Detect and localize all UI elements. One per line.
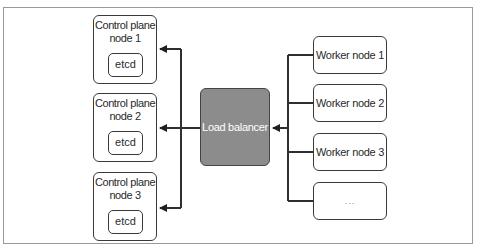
control-plane-node-2-label: Control plane node 2: [94, 97, 156, 123]
control-plane-node-2: Control plane node 2 etcd: [93, 93, 157, 162]
label-line-1: Control plane: [94, 19, 156, 32]
etcd-box: etcd: [108, 131, 143, 155]
etcd-box: etcd: [108, 210, 143, 234]
worker-node-3: Worker node 3: [313, 133, 387, 171]
load-balancer: Load balancer: [200, 88, 270, 166]
label-line-1: Control plane: [94, 176, 156, 189]
label-line-2: node 2: [94, 110, 156, 123]
worker-node-1-label: Worker node 1: [316, 49, 384, 61]
worker-node-2-label: Worker node 2: [316, 97, 384, 109]
load-balancer-label: Load balancer: [202, 121, 268, 133]
worker-node-3-label: Worker node 3: [316, 146, 384, 158]
control-plane-node-3: Control plane node 3 etcd: [93, 172, 157, 241]
control-plane-node-1-label: Control plane node 1: [94, 19, 156, 45]
label-line-1: Control plane: [94, 97, 156, 110]
control-plane-node-1: Control plane node 1 etcd: [93, 15, 157, 84]
worker-node-more: ...: [313, 182, 387, 220]
worker-node-2: Worker node 2: [313, 84, 387, 122]
label-line-2: node 1: [94, 32, 156, 45]
ellipsis-label: ...: [345, 196, 356, 206]
worker-node-1: Worker node 1: [313, 36, 387, 74]
etcd-box: etcd: [108, 53, 143, 77]
label-line-2: node 3: [94, 189, 156, 202]
control-plane-node-3-label: Control plane node 3: [94, 176, 156, 202]
